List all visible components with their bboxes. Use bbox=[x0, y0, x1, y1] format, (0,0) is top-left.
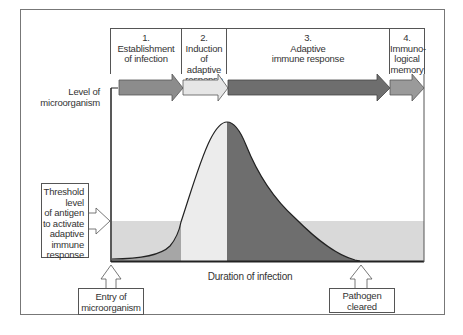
phase-3-arrow bbox=[228, 74, 390, 101]
infection-diagram bbox=[0, 0, 463, 335]
cleared-note: Pathogen cleared bbox=[329, 288, 395, 313]
x-axis-label: Duration of infection bbox=[195, 272, 305, 283]
entry-line-1: Entry of bbox=[79, 292, 143, 303]
y-axis-label: Level of microorganism bbox=[36, 87, 100, 108]
threshold-note: Threshold level of antigen to activate a… bbox=[41, 183, 89, 258]
phase-arrows bbox=[119, 74, 424, 101]
phase-2-arrow bbox=[183, 74, 228, 101]
threshold-line-1: Threshold bbox=[42, 187, 84, 198]
y-axis-label-line-2: microorganism bbox=[36, 98, 100, 109]
phase-2-area bbox=[181, 122, 227, 261]
y-axis-label-line-1: Level of bbox=[36, 87, 100, 98]
cleared-pointer-icon bbox=[350, 265, 372, 289]
threshold-line-3: of antigen bbox=[42, 208, 84, 219]
threshold-pointer-icon bbox=[88, 208, 110, 234]
cleared-line-2: cleared bbox=[330, 302, 394, 313]
entry-pointer-icon bbox=[101, 265, 121, 289]
phase-4-arrow bbox=[390, 74, 424, 101]
threshold-line-7: response bbox=[42, 250, 84, 261]
phase-1-arrow bbox=[119, 74, 183, 101]
entry-line-2: microorganism bbox=[79, 303, 143, 314]
threshold-line-5: adaptive bbox=[42, 229, 84, 240]
cleared-line-1: Pathogen bbox=[330, 291, 394, 302]
entry-note: Entry of microorganism bbox=[78, 288, 144, 315]
